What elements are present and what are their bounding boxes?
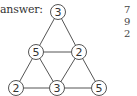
node-mid-right: 2 [72,45,87,60]
node-bottom-left: 2 [9,81,24,96]
graph-nodes: 352235 [9,5,107,96]
svg-text:5: 5 [96,82,103,95]
side-text-2: 9 [124,16,130,27]
node-bottom-center: 3 [50,81,65,96]
side-text-3: 2 [124,28,130,39]
side-text-1: 7 [124,4,130,15]
triangle-graph-diagram: 352235 [0,0,137,96]
node-top: 3 [51,5,66,20]
node-bottom-right: 5 [92,81,107,96]
svg-text:5: 5 [33,46,40,59]
svg-text:3: 3 [55,6,62,19]
svg-text:2: 2 [76,46,83,59]
node-mid-left: 5 [29,45,44,60]
svg-text:3: 3 [54,82,61,95]
svg-text:2: 2 [13,82,20,95]
